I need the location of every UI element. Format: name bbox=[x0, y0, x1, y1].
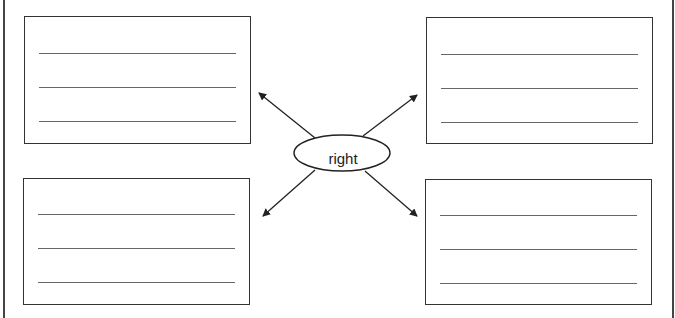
center-word: right bbox=[295, 140, 391, 176]
arrow-top-right-icon bbox=[363, 95, 417, 136]
arrow-top-left-icon bbox=[259, 93, 315, 138]
arrow-bottom-left-icon bbox=[263, 170, 315, 216]
arrow-bottom-right-icon bbox=[365, 171, 417, 216]
